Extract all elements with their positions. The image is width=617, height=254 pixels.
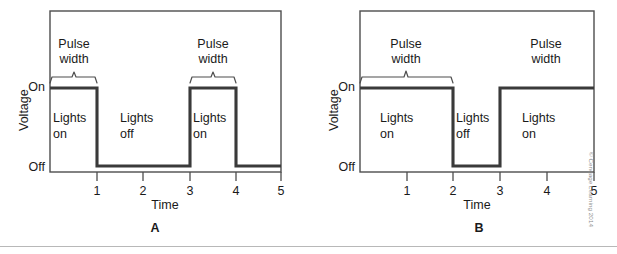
pulse-width-label-1-line2: width (44, 53, 104, 67)
waveform-trace (360, 88, 594, 166)
state-label-2-line2: off (120, 128, 134, 142)
pulse-width-bracket-1 (360, 71, 453, 83)
state-label-1-line1: Lights (53, 112, 86, 126)
x-tick-label-1: 1 (87, 184, 107, 198)
chart-panel-a: Voltage On Off 1 2 3 4 5 Time Pulse widt… (0, 0, 308, 254)
x-tick-label-4: 4 (226, 184, 246, 198)
x-axis-title: Time (447, 199, 507, 213)
pulse-width-label-1-line1: Pulse (376, 38, 436, 52)
state-label-3-line1: Lights (522, 112, 555, 126)
figure-pwm-waveforms: Voltage On Off 1 2 3 4 5 Time Pulse widt… (0, 0, 617, 254)
chart-panel-b: Voltage On Off 1 2 3 4 5 Time Pulse widt… (309, 0, 617, 254)
x-tick-label-4: 4 (537, 184, 557, 198)
pulse-width-label-1-line1: Pulse (44, 38, 104, 52)
y-tick-label-off: Off (309, 161, 355, 175)
x-axis-title: Time (135, 199, 195, 213)
y-tick-label-on: On (309, 81, 355, 95)
y-tick-label-on: On (0, 81, 45, 95)
copyright-credit: © Cengage Learning 2014 (588, 152, 595, 227)
state-label-3-line1: Lights (193, 112, 226, 126)
pulse-width-label-2-line1: Pulse (516, 38, 576, 52)
x-tick-label-2: 2 (133, 184, 153, 198)
pulse-width-bracket-1 (50, 72, 97, 83)
pulse-width-bracket-2 (190, 72, 236, 83)
x-tick-label-3: 3 (180, 184, 200, 198)
y-axis-title: Voltage (327, 89, 341, 131)
x-tick-label-5: 5 (271, 184, 291, 198)
state-label-3-line2: on (193, 128, 207, 142)
state-label-3-line2: on (522, 128, 536, 142)
y-axis-title: Voltage (17, 89, 31, 131)
pulse-width-label-1-line2: width (376, 53, 436, 67)
state-label-1-line2: on (53, 128, 67, 142)
y-tick-label-off: Off (0, 161, 45, 175)
state-label-2-line1: Lights (120, 112, 153, 126)
x-tick-label-3: 3 (490, 184, 510, 198)
x-tick-label-2: 2 (443, 184, 463, 198)
plot-frame (50, 11, 281, 172)
state-label-1-line2: on (380, 128, 394, 142)
pulse-width-label-2-line2: width (516, 53, 576, 67)
pulse-width-label-2-line2: width (183, 53, 243, 67)
plot-frame (360, 11, 594, 172)
waveform-trace (50, 88, 281, 166)
x-axis-ticks (407, 172, 594, 181)
x-tick-label-1: 1 (397, 184, 417, 198)
panel-letter-b: B (459, 221, 499, 235)
panel-letter-a: A (135, 221, 175, 235)
bottom-divider (0, 246, 617, 247)
pulse-width-label-2-line1: Pulse (183, 38, 243, 52)
state-label-2-line1: Lights (456, 112, 489, 126)
x-axis-ticks (97, 172, 281, 181)
state-label-1-line1: Lights (380, 112, 413, 126)
state-label-2-line2: off (456, 128, 470, 142)
